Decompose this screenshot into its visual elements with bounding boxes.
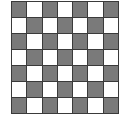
board-cell-light	[88, 2, 102, 17]
board-cell-light	[12, 50, 26, 65]
board-cell-dark	[58, 50, 72, 65]
board-cell-light	[88, 98, 102, 113]
board-cell-dark	[12, 98, 26, 113]
board-cell-light	[58, 98, 72, 113]
board-cell-light	[43, 50, 57, 65]
board-cell-dark	[104, 66, 118, 81]
board-cell-dark	[88, 50, 102, 65]
board-cell-dark	[104, 2, 118, 17]
board-cell-light	[27, 2, 41, 17]
checkerboard	[11, 1, 119, 114]
board-cell-light	[58, 2, 72, 17]
board-cell-light	[88, 34, 102, 49]
board-cell-dark	[43, 98, 57, 113]
board-cell-dark	[27, 82, 41, 97]
board-cell-dark	[43, 66, 57, 81]
board-cell-dark	[73, 2, 87, 17]
board-cell-dark	[73, 98, 87, 113]
board-cell-dark	[104, 34, 118, 49]
board-cell-dark	[58, 82, 72, 97]
board-cell-dark	[73, 34, 87, 49]
board-cell-light	[12, 82, 26, 97]
board-cell-dark	[104, 98, 118, 113]
board-cell-dark	[88, 18, 102, 33]
board-cell-light	[104, 18, 118, 33]
board-cell-dark	[27, 50, 41, 65]
board-cell-light	[73, 50, 87, 65]
board-cell-dark	[12, 66, 26, 81]
board-cell-light	[73, 82, 87, 97]
board-cell-light	[27, 66, 41, 81]
board-cell-light	[88, 66, 102, 81]
board-cell-light	[104, 82, 118, 97]
board-cell-dark	[27, 18, 41, 33]
board-cell-dark	[12, 2, 26, 17]
board-cell-light	[43, 18, 57, 33]
board-cell-dark	[43, 34, 57, 49]
board-cell-dark	[88, 82, 102, 97]
board-cell-dark	[58, 18, 72, 33]
board-cell-dark	[12, 34, 26, 49]
board-cell-light	[43, 82, 57, 97]
board-cell-dark	[43, 2, 57, 17]
board-cell-light	[27, 98, 41, 113]
board-cell-dark	[73, 66, 87, 81]
board-cell-light	[58, 66, 72, 81]
board-cell-light	[58, 34, 72, 49]
board-cell-light	[104, 50, 118, 65]
board-cell-light	[12, 18, 26, 33]
board-cell-light	[73, 18, 87, 33]
board-cell-light	[27, 34, 41, 49]
